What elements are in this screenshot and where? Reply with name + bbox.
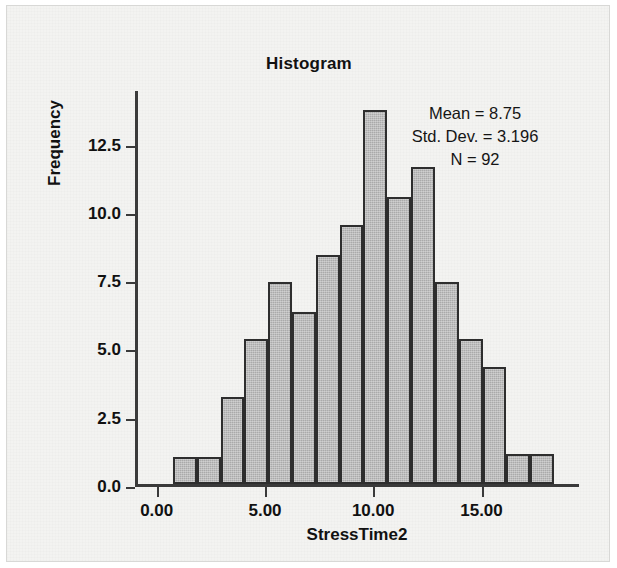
histogram-bar bbox=[435, 282, 459, 484]
plot-area: 0.02.55.07.510.012.5 0.005.0010.0015.00 bbox=[135, 91, 579, 487]
x-tick-mark bbox=[373, 487, 375, 497]
x-tick-mark bbox=[265, 487, 267, 497]
histogram-bar bbox=[340, 225, 364, 484]
x-axis-line bbox=[135, 484, 579, 487]
histogram-bar bbox=[459, 339, 483, 484]
histogram-bar bbox=[221, 397, 245, 484]
y-tick-label: 12.5 bbox=[88, 136, 121, 156]
page-title: Histogram bbox=[7, 54, 611, 74]
y-tick-label: 7.5 bbox=[97, 272, 121, 292]
histogram-bar bbox=[316, 255, 340, 484]
histogram-bar bbox=[506, 454, 530, 484]
histogram-bar bbox=[387, 197, 411, 484]
y-axis-title: Frequency bbox=[45, 100, 65, 186]
y-tick-mark bbox=[126, 419, 135, 421]
y-tick-label: 2.5 bbox=[97, 409, 121, 429]
y-tick-label: 5.0 bbox=[97, 340, 121, 360]
histogram-bar bbox=[363, 110, 387, 484]
x-tick-label: 5.00 bbox=[248, 501, 281, 521]
histogram-bar bbox=[292, 312, 316, 484]
y-tick-label: 0.0 bbox=[97, 477, 121, 497]
histogram-bar bbox=[268, 282, 292, 484]
y-tick-mark bbox=[126, 214, 135, 216]
y-tick-mark bbox=[126, 350, 135, 352]
y-axis-line bbox=[135, 91, 138, 487]
histogram-bar bbox=[173, 457, 197, 484]
x-tick-mark bbox=[157, 487, 159, 497]
y-tick-label: 10.0 bbox=[88, 204, 121, 224]
histogram-bar bbox=[197, 457, 221, 484]
histogram-bar bbox=[411, 167, 435, 484]
x-tick-mark bbox=[482, 487, 484, 497]
x-axis-title: StressTime2 bbox=[135, 525, 579, 545]
histogram-bar bbox=[244, 339, 268, 484]
histogram-bar bbox=[530, 454, 554, 484]
x-tick-label: 0.00 bbox=[140, 501, 173, 521]
x-tick-label: 10.00 bbox=[352, 501, 395, 521]
x-tick-label: 15.00 bbox=[460, 501, 503, 521]
y-tick-mark bbox=[126, 282, 135, 284]
histogram-bar bbox=[483, 367, 507, 484]
y-tick-mark bbox=[126, 487, 135, 489]
y-tick-mark bbox=[126, 146, 135, 148]
histogram-figure: Histogram Mean = 8.75 Std. Dev. = 3.196 … bbox=[6, 5, 610, 562]
